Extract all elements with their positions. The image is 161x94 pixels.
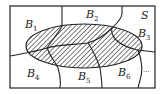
svg-text:2: 2 [94,15,98,23]
label-B1: B1 [24,18,37,33]
svg-text:B: B [77,70,86,83]
svg-text:6: 6 [126,73,131,81]
svg-text:4: 4 [35,74,40,82]
svg-text:B: B [117,66,126,79]
label-B5: B5 [77,70,90,85]
label-B6: B6 [117,66,131,81]
svg-text:B: B [137,27,146,40]
svg-text:B: B [24,18,33,31]
label-B2: B2 [85,8,98,23]
label-B4: B4 [26,67,40,82]
ellipsis: ... [143,66,150,74]
label-B3: B3 [137,27,150,42]
svg-text:B: B [26,67,35,80]
svg-text:1: 1 [33,25,37,33]
svg-text:B: B [85,8,94,21]
svg-text:3: 3 [146,34,150,42]
label-S: S [141,9,149,22]
svg-text:5: 5 [86,77,90,85]
partition-diagram: S B1 B2 B3 B4 B5 B6 ... [0,0,161,94]
